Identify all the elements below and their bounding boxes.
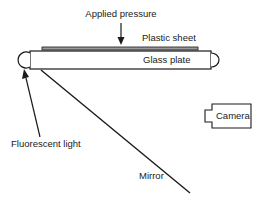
pressure-arrow-icon <box>118 23 125 45</box>
mirror-label: Mirror <box>139 170 164 181</box>
glass-plate-label: Glass plate <box>143 54 191 65</box>
fluorescent-light-arrow-icon <box>22 69 40 137</box>
camera-label: Camera <box>216 110 251 121</box>
diagram-canvas: Applied pressure Plastic sheet Glass pla… <box>0 0 264 204</box>
fluorescent-light-right-icon <box>211 53 219 67</box>
plastic-sheet-label: Plastic sheet <box>142 32 196 43</box>
plastic-sheet <box>42 47 198 50</box>
fluorescent-light-left-icon <box>18 52 30 68</box>
mirror <box>41 70 190 193</box>
applied-pressure-label: Applied pressure <box>85 8 156 19</box>
fluorescent-light-label: Fluorescent light <box>11 138 81 149</box>
